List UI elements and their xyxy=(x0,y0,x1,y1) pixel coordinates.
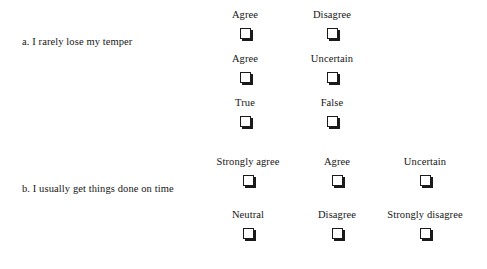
empty-checkbox-icon[interactable] xyxy=(332,228,343,239)
empty-checkbox-icon[interactable] xyxy=(332,175,343,186)
option-label: Uncertain xyxy=(280,52,384,65)
empty-checkbox-icon[interactable] xyxy=(327,28,338,39)
option-row: True False xyxy=(0,96,487,140)
option-cell[interactable]: Strongly disagree xyxy=(373,208,477,239)
empty-checkbox-icon[interactable] xyxy=(243,175,254,186)
option-cell[interactable]: Uncertain xyxy=(373,155,477,186)
option-cell[interactable]: Uncertain xyxy=(280,52,384,83)
option-rows-b: Strongly agree Agree Uncertain Neutral xyxy=(0,155,487,261)
option-row: Strongly agree Agree Uncertain xyxy=(0,155,487,208)
option-rows-a: Agree Disagree Agree Uncertain xyxy=(0,8,487,140)
questionnaire-figure: a. I rarely lose my temper Agree Disagre… xyxy=(0,0,487,269)
empty-checkbox-icon[interactable] xyxy=(420,175,431,186)
empty-checkbox-icon[interactable] xyxy=(240,72,251,83)
empty-checkbox-icon[interactable] xyxy=(240,116,251,127)
empty-checkbox-icon[interactable] xyxy=(240,28,251,39)
option-label: Strongly disagree xyxy=(373,208,477,221)
option-cell[interactable]: Disagree xyxy=(280,8,384,39)
empty-checkbox-icon[interactable] xyxy=(420,228,431,239)
option-row: Agree Uncertain xyxy=(0,52,487,96)
empty-checkbox-icon[interactable] xyxy=(327,72,338,83)
empty-checkbox-icon[interactable] xyxy=(243,228,254,239)
option-row: Agree Disagree xyxy=(0,8,487,52)
option-label: Disagree xyxy=(280,8,384,21)
option-cell[interactable]: False xyxy=(280,96,384,127)
option-label: Uncertain xyxy=(373,155,477,168)
option-row: Neutral Disagree Strongly disagree xyxy=(0,208,487,261)
empty-checkbox-icon[interactable] xyxy=(327,116,338,127)
option-label: False xyxy=(280,96,384,109)
